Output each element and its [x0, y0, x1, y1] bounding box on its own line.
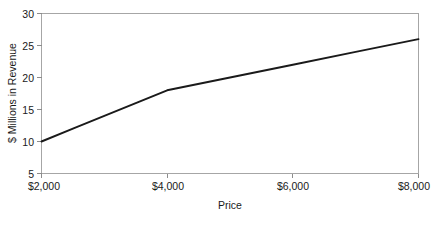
y-tick-label-20: 20	[22, 72, 34, 84]
y-axis-title: $ Millions in Revenue	[6, 43, 18, 143]
x-tick-label-8000: $8,000	[398, 180, 430, 192]
y-tick-label-25: 25	[22, 40, 34, 52]
x-axis-title: Price	[218, 199, 242, 211]
y-tick-label-10: 10	[22, 136, 34, 148]
y-tick-label-15: 15	[22, 104, 34, 116]
x-tick-label-2000: $2,000	[28, 180, 60, 192]
chart-container: 30 25 20 15 10 5 $2,000 $4,000 $6,000 $8…	[0, 0, 438, 226]
x-tick-label-6000: $6,000	[277, 180, 309, 192]
y-tick-label-5: 5	[28, 168, 34, 180]
chart-background	[0, 0, 438, 226]
x-tick-label-4000: $4,000	[152, 180, 184, 192]
revenue-vs-price-line-chart: 30 25 20 15 10 5 $2,000 $4,000 $6,000 $8…	[0, 0, 438, 226]
y-tick-label-30: 30	[22, 8, 34, 20]
